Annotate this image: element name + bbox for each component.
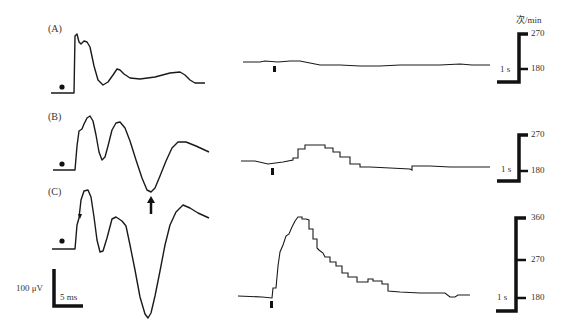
stimulus-marker-c bbox=[270, 301, 273, 308]
voltage-scale-label: 100 μV bbox=[16, 283, 43, 293]
stimulus-dot-c bbox=[59, 238, 64, 243]
stimulus-marker-b bbox=[271, 168, 274, 175]
rate-c-top: 360 bbox=[531, 212, 545, 222]
stimulus-dot-b bbox=[59, 161, 64, 166]
heart-rate-a bbox=[243, 61, 490, 72]
heart-rate-c bbox=[238, 217, 470, 308]
arrow-up-icon bbox=[147, 196, 155, 203]
time-scale-label-a: 1 s bbox=[500, 64, 510, 74]
time-scale-label-ms: 5 ms bbox=[60, 292, 77, 302]
rate-axis-b bbox=[497, 135, 528, 181]
heart-rate-b bbox=[241, 145, 490, 175]
rate-c-bottom: 180 bbox=[531, 292, 545, 302]
rate-b-top: 270 bbox=[531, 129, 545, 139]
rate-a-top: 270 bbox=[531, 28, 545, 38]
stimulus-marker-a bbox=[273, 66, 276, 72]
stimulus-dot-a bbox=[59, 84, 64, 89]
rate-a-bottom: 180 bbox=[531, 63, 545, 73]
time-scale-label-c: 1 s bbox=[497, 292, 507, 302]
time-scale-label-b: 1 s bbox=[501, 164, 511, 174]
waveform-a bbox=[51, 34, 205, 93]
waveform-plot bbox=[0, 0, 564, 327]
rate-c-mid: 270 bbox=[531, 254, 545, 264]
rate-b-bottom: 180 bbox=[531, 165, 545, 175]
rate-axis-a bbox=[497, 34, 528, 82]
waveform-b bbox=[53, 116, 209, 214]
rate-unit-label: 次/min bbox=[516, 13, 542, 26]
